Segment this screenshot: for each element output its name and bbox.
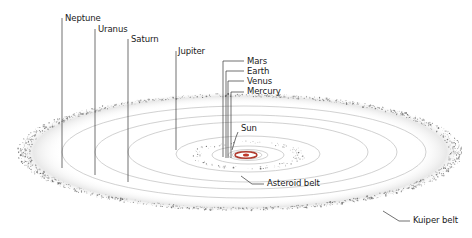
label-asteroid-belt: Asteroid belt [267,179,320,188]
label-sun: Sun [241,124,257,133]
label-saturn: Saturn [131,35,158,44]
label-neptune: Neptune [65,14,101,23]
label-mercury: Mercury [247,87,281,96]
label-earth: Earth [247,67,269,76]
label-venus: Venus [247,77,272,86]
label-uranus: Uranus [98,25,128,34]
label-kuiper-belt: Kuiper belt [413,216,458,225]
solar-system-diagram: Neptune Uranus Saturn Jupiter Mars Earth… [0,0,472,238]
label-jupiter: Jupiter [178,47,205,56]
diagram-canvas [0,0,472,238]
label-mars: Mars [247,57,267,66]
